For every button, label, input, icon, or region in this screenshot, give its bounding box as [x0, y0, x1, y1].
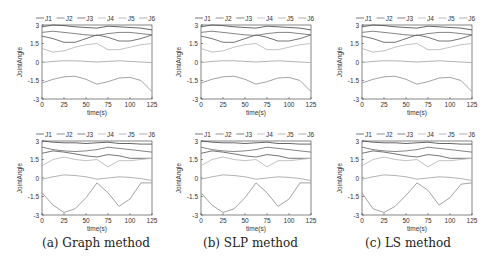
series-j6 [42, 76, 152, 91]
series-j1 [201, 25, 311, 30]
legend: J1J2J3J4J5J6 [356, 131, 476, 138]
y-tick-label: 0 [355, 59, 359, 66]
legend-entry-j1: J1 [365, 15, 372, 22]
y-axis-label: JointAngle [175, 162, 183, 193]
legend-entry-j5: J5 [128, 131, 135, 138]
y-tick-label: 1.5 [350, 40, 359, 47]
series-j4 [201, 44, 311, 53]
y-tick-label: 0 [194, 59, 198, 66]
chart-panel-3: 31.50-1.5-30255075100125time(s)JointAngl… [175, 15, 317, 118]
x-tick-label: 25 [219, 101, 227, 108]
y-tick-label: 0 [35, 59, 39, 66]
y-axis-label: JointAngle [336, 162, 344, 193]
legend-entry-j5: J5 [448, 15, 455, 22]
x-tick-label: 50 [402, 217, 410, 224]
legend-entry-j4: J4 [107, 131, 114, 138]
series-j4 [362, 44, 472, 53]
series-j6 [201, 183, 311, 213]
legend-entry-j2: J2 [225, 131, 232, 138]
x-tick-label: 50 [82, 217, 90, 224]
legend-entry-j1: J1 [45, 15, 52, 22]
y-tick-label: 3 [35, 22, 39, 29]
series-j6 [201, 76, 311, 91]
x-tick-label: 125 [306, 217, 317, 224]
legend-entry-j6: J6 [307, 15, 314, 22]
legend-entry-j2: J2 [66, 131, 73, 138]
x-tick-label: 75 [263, 101, 271, 108]
x-tick-label: 100 [125, 101, 136, 108]
legend-entry-j5: J5 [448, 131, 455, 138]
legend-entry-j2: J2 [225, 15, 232, 22]
series-j1 [201, 141, 311, 144]
series-j3 [362, 151, 472, 158]
series-j5 [201, 175, 311, 181]
y-tick-label: 1.5 [30, 156, 39, 163]
y-tick-label: 3 [35, 138, 39, 145]
legend-entry-j6: J6 [307, 131, 314, 138]
y-tick-label: 1.5 [189, 40, 198, 47]
series-j4 [42, 44, 152, 53]
chart-panel-1: 31.50-1.5-30255075100125time(s)JointAngl… [16, 15, 158, 118]
y-axis-label: JointAngle [336, 46, 344, 77]
series-j6 [42, 183, 152, 213]
legend-entry-j6: J6 [148, 131, 155, 138]
x-axis-label: time(s) [246, 225, 266, 233]
x-tick-label: 0 [40, 217, 44, 224]
legend-entry-j4: J4 [427, 15, 434, 22]
x-tick-label: 25 [60, 101, 68, 108]
legend-entry-j2: J2 [66, 15, 73, 22]
x-tick-label: 25 [60, 217, 68, 224]
series-j1 [362, 25, 472, 30]
x-tick-label: 125 [467, 217, 478, 224]
x-tick-label: 25 [219, 217, 227, 224]
y-tick-label: -3 [192, 212, 198, 219]
chart-panel-4: 31.50-1.5-30255075100125time(s)JointAngl… [175, 131, 317, 234]
y-axis-label: JointAngle [16, 162, 24, 193]
x-tick-label: 75 [263, 217, 271, 224]
legend-entry-j5: J5 [128, 15, 135, 22]
legend-entry-j1: J1 [204, 15, 211, 22]
x-tick-label: 100 [445, 101, 456, 108]
legend-entry-j5: J5 [287, 15, 294, 22]
series-j6 [362, 76, 472, 91]
legend-entry-j6: J6 [148, 15, 155, 22]
x-axis-label: time(s) [407, 109, 427, 117]
legend-entry-j4: J4 [266, 131, 273, 138]
y-tick-label: 3 [194, 22, 198, 29]
y-tick-label: -3 [33, 212, 39, 219]
x-tick-label: 0 [360, 101, 364, 108]
legend-entry-j1: J1 [204, 131, 211, 138]
legend: J1J2J3J4J5J6 [36, 15, 156, 22]
x-axis-label: time(s) [87, 109, 107, 117]
series-j1 [362, 141, 472, 144]
y-tick-label: -1.5 [187, 193, 199, 200]
y-tick-label: -3 [192, 96, 198, 103]
legend-entry-j2: J2 [386, 131, 393, 138]
series-j5 [42, 175, 152, 181]
y-axis-label: JointAngle [16, 46, 24, 77]
series-j3 [201, 151, 311, 158]
series-j5 [201, 61, 311, 63]
y-tick-label: 0 [35, 175, 39, 182]
x-tick-label: 100 [284, 217, 295, 224]
y-tick-label: -3 [353, 96, 359, 103]
x-tick-label: 50 [402, 101, 410, 108]
series-j3 [201, 35, 311, 42]
series-j1 [42, 25, 152, 30]
x-tick-label: 0 [40, 101, 44, 108]
y-tick-label: 0 [194, 175, 198, 182]
series-j6 [362, 183, 472, 213]
legend-entry-j3: J3 [86, 131, 93, 138]
legend: J1J2J3J4J5J6 [356, 15, 476, 22]
legend-entry-j3: J3 [86, 15, 93, 22]
x-tick-label: 75 [424, 101, 432, 108]
y-tick-label: 3 [355, 22, 359, 29]
legend-entry-j6: J6 [468, 15, 475, 22]
series-j3 [42, 151, 152, 158]
x-tick-label: 0 [360, 217, 364, 224]
y-tick-label: 0 [355, 175, 359, 182]
chart-panel-5: 31.50-1.5-30255075100125time(s)JointAngl… [336, 15, 478, 118]
y-tick-label: -3 [33, 96, 39, 103]
legend-entry-j1: J1 [365, 131, 372, 138]
x-tick-label: 50 [82, 101, 90, 108]
